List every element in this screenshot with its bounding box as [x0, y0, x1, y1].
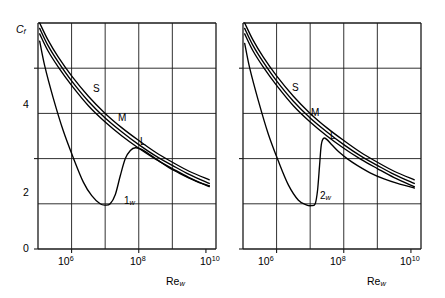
curve-M [245, 28, 415, 183]
y-tick-label-4: 4 [23, 99, 29, 110]
x-tick-label-1e10: 1010 [200, 255, 220, 266]
x-axis-label-1: Rew [166, 276, 185, 288]
curve-label-m-1: M [118, 113, 126, 123]
plot-area-1 [0, 0, 222, 298]
chart-panel-1: Cf 4 2 0 106 108 1010 Rew S M L 1w [0, 0, 222, 298]
curve-label-2w: 2w [320, 191, 331, 202]
curve-1_w [40, 41, 210, 205]
x-tick-label-1e6: 106 [58, 255, 74, 266]
curve-S [245, 23, 415, 180]
curve-label-s-1: S [93, 84, 100, 94]
chart-panel-2: 106 108 1010 Rew S M L 2w [222, 0, 445, 298]
curve-S [40, 23, 210, 180]
x-axis-label-2: Rew [367, 276, 386, 288]
friction-coefficient-figure: Cf 4 2 0 106 108 1010 Rew S M L 1w 106 1… [0, 0, 445, 298]
y-axis-label-1: Cf [16, 24, 26, 36]
y-tick-label-2: 2 [23, 187, 29, 198]
curve-label-s-2: S [292, 83, 299, 93]
y-tick-label-0: 0 [23, 243, 29, 254]
x-tick-label-1e6-p2: 106 [258, 255, 274, 266]
curve-label-1w: 1w [124, 196, 135, 207]
x-tick-label-1e8: 108 [130, 255, 146, 266]
curve-label-m-2: M [311, 108, 319, 118]
x-tick-label-1e8-p2: 108 [330, 255, 346, 266]
x-tick-label-1e10-p2: 1010 [400, 255, 420, 266]
curve-label-l-2: L [330, 131, 336, 141]
curve-L [245, 34, 415, 187]
curve-label-l-1: L [140, 137, 146, 147]
curve-L [40, 34, 210, 187]
